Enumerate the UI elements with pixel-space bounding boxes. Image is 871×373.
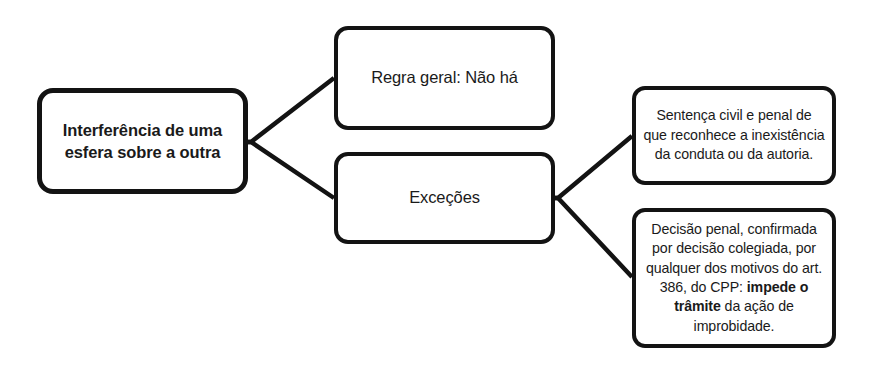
node-exception-civil-criminal-sentence-label: Sentença civil e penal de que reconhece … — [636, 106, 832, 165]
diagram-canvas: Interferência de uma esfera sobre a outr… — [0, 0, 871, 373]
node-exceptions[interactable]: Exceções — [334, 152, 555, 244]
node-root-label: Interferência de uma esfera sobre a outr… — [42, 119, 243, 164]
node-exception-civil-criminal-sentence[interactable]: Sentença civil e penal de que reconhece … — [632, 86, 836, 185]
connector-exceptions-to-exception-2 — [555, 198, 632, 277]
connector-root-to-exceptions — [248, 142, 334, 198]
node-exception-criminal-decision[interactable]: Decisão penal, confirmada por decisão co… — [632, 208, 836, 348]
connector-exceptions-to-exception-1 — [555, 136, 632, 198]
connector-root-to-rule — [248, 78, 334, 142]
node-rule-general[interactable]: Regra geral: Não há — [334, 26, 555, 130]
node-exceptions-label: Exceções — [338, 187, 551, 208]
node-root[interactable]: Interferência de uma esfera sobre a outr… — [37, 88, 248, 194]
node-rule-general-label: Regra geral: Não há — [338, 67, 551, 88]
node-exception-criminal-decision-label: Decisão penal, confirmada por decisão co… — [636, 220, 832, 337]
